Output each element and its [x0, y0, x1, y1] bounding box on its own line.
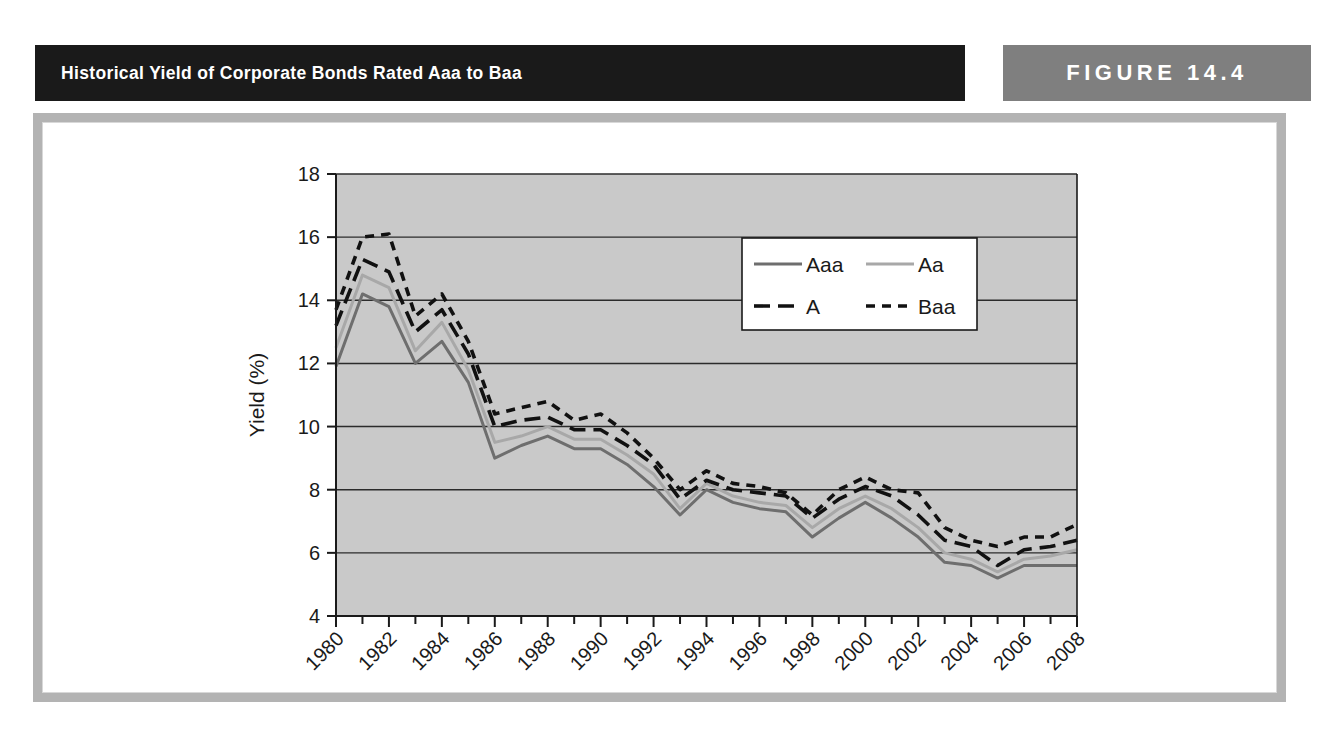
y-tick-label: 8: [309, 479, 320, 501]
chart-legend: AaaAaABaa: [742, 238, 977, 330]
y-tick-label: 6: [309, 542, 320, 564]
x-tick-label: 1986: [460, 627, 507, 674]
x-tick-label: 1980: [301, 627, 348, 674]
y-axis-title: Yield (%): [245, 353, 268, 437]
figure-number-banner: FIGURE 14.4: [1003, 45, 1311, 101]
x-tick-label: 2000: [830, 627, 877, 674]
title-banner: Historical Yield of Corporate Bonds Rate…: [35, 45, 965, 101]
x-tick-label: 1984: [407, 627, 454, 674]
x-axis-ticks: [336, 616, 1077, 627]
legend-label-aa: Aa: [918, 253, 944, 276]
x-tick-label: 1990: [565, 627, 612, 674]
y-axis-tick-labels: 4681012141618: [298, 163, 320, 627]
x-tick-label: 1992: [618, 627, 665, 674]
figure-title: Historical Yield of Corporate Bonds Rate…: [35, 63, 522, 84]
legend-label-aaa: Aaa: [806, 253, 844, 276]
x-tick-label: 1998: [777, 627, 824, 674]
figure-frame: 4681012141618 19801982198419861988199019…: [33, 113, 1286, 702]
y-tick-label: 16: [298, 226, 320, 248]
legend-label-a: A: [806, 295, 820, 318]
y-tick-label: 14: [298, 289, 320, 311]
chart-container: 4681012141618 19801982198419861988199019…: [42, 122, 1295, 711]
x-tick-label: 1982: [354, 627, 401, 674]
y-tick-label: 10: [298, 416, 320, 438]
y-tick-label: 4: [309, 605, 320, 627]
x-tick-label: 2004: [936, 627, 983, 674]
figure-header: Historical Yield of Corporate Bonds Rate…: [0, 45, 1331, 101]
x-tick-label: 2006: [989, 627, 1036, 674]
y-axis-ticks: [327, 174, 336, 616]
y-tick-label: 18: [298, 163, 320, 185]
x-tick-label: 1996: [724, 627, 771, 674]
y-tick-label: 12: [298, 352, 320, 374]
x-tick-label: 2002: [883, 627, 930, 674]
x-tick-label: 2008: [1042, 627, 1089, 674]
figure-number-label: FIGURE 14.4: [1066, 60, 1248, 86]
x-axis-tick-labels: 1980198219841986198819901992199419961998…: [301, 627, 1089, 674]
x-tick-label: 1994: [671, 627, 718, 674]
x-tick-label: 1988: [513, 627, 560, 674]
yield-line-chart: 4681012141618 19801982198419861988199019…: [42, 122, 1295, 711]
legend-label-baa: Baa: [918, 295, 956, 318]
